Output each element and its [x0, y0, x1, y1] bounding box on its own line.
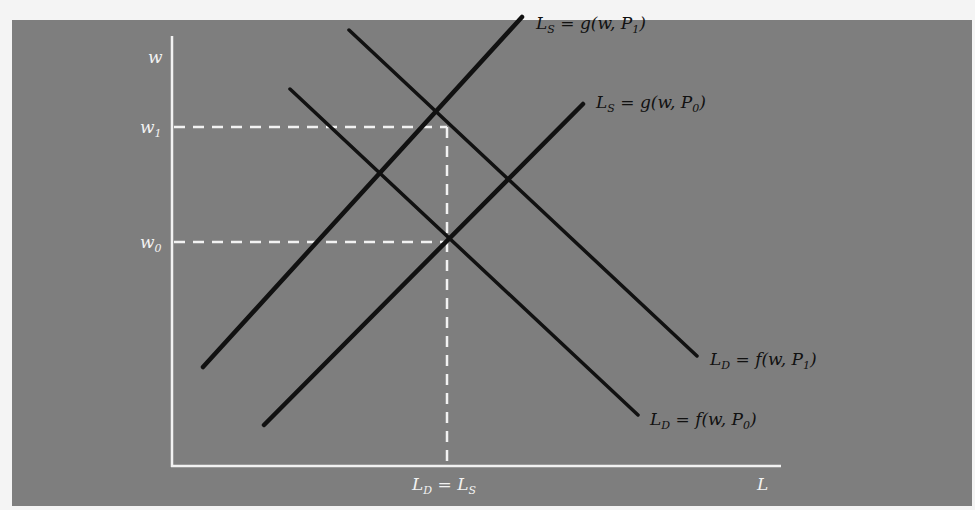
- w0-tick-label: w0: [140, 232, 162, 255]
- supply-curve-p1-label: LS = g(w, P1): [535, 13, 646, 36]
- demand-curve-p0-label: LD = f(w, P0): [649, 409, 757, 432]
- x-axis-label: L: [756, 474, 768, 494]
- y-axis-label: w: [148, 47, 163, 67]
- labor-market-diagram: w L w1 w0 LD = LS LS = g(w, P1) LS = g(w…: [0, 0, 975, 510]
- supply-curve-p0-label: LS = g(w, P0): [595, 92, 706, 115]
- w1-tick-label: w1: [140, 117, 162, 140]
- supply-curve-p1: [203, 17, 522, 367]
- equilibrium-quantity-label: LD = LS: [411, 474, 476, 497]
- supply-curve-p0: [264, 104, 583, 425]
- demand-curve-p1-label: LD = f(w, P1): [709, 349, 817, 372]
